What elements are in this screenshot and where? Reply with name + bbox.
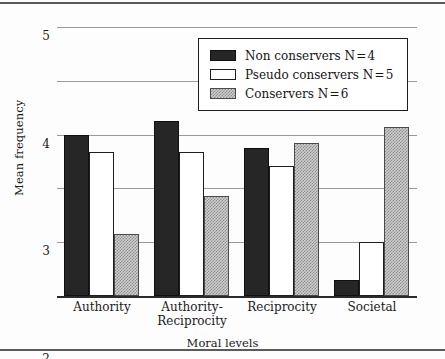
y-tick-label: 4 — [42, 138, 50, 150]
legend-swatch-conservers — [210, 88, 236, 99]
y-tick-label: 3 — [42, 245, 50, 257]
legend-label-pseudo-conservers: Pseudo conservers N = 5 — [245, 68, 393, 82]
bar-conservers[interactable] — [114, 234, 139, 296]
bar-conservers[interactable] — [294, 143, 319, 296]
bar-conservers[interactable] — [384, 127, 409, 296]
legend-label-conservers: Conservers N = 6 — [245, 87, 348, 101]
legend-label-non-conservers: Non conservers N = 4 — [245, 49, 375, 63]
legend-item[interactable]: Non conservers N = 4 — [210, 46, 397, 65]
bar-pseudo_conservers[interactable] — [89, 152, 114, 296]
chart-legend: Non conservers N = 4 Pseudo conservers N… — [198, 38, 408, 111]
bar-non_conservers[interactable] — [154, 121, 179, 296]
bar-pseudo_conservers[interactable] — [269, 166, 294, 296]
bar-non_conservers[interactable] — [334, 280, 359, 296]
y-tick-label: 2 — [42, 353, 50, 359]
x-tick-label-line: Societal — [312, 300, 432, 314]
bar-pseudo_conservers[interactable] — [359, 242, 384, 296]
bar-non_conservers[interactable] — [64, 135, 89, 296]
figure: Mean frequency Moral levels 12345 Author… — [0, 0, 445, 359]
bar-non_conservers[interactable] — [244, 148, 269, 296]
legend-item[interactable]: Pseudo conservers N = 5 — [210, 65, 397, 84]
y-axis-label: Mean frequency — [12, 100, 26, 196]
page-rule-top — [0, 2, 445, 4]
legend-swatch-non-conservers — [210, 50, 236, 61]
bar-conservers[interactable] — [204, 196, 229, 296]
bar-pseudo_conservers[interactable] — [179, 152, 204, 296]
legend-item[interactable]: Conservers N = 6 — [210, 84, 397, 103]
legend-swatch-pseudo-conservers — [210, 69, 236, 80]
x-tick-label-line: Reciprocity — [132, 314, 252, 328]
x-axis-baseline — [57, 296, 417, 298]
x-tick-label: Societal — [312, 300, 432, 314]
bar-group — [57, 18, 147, 296]
x-axis-label: Moral levels — [0, 336, 445, 350]
y-tick-label: 5 — [42, 30, 50, 42]
